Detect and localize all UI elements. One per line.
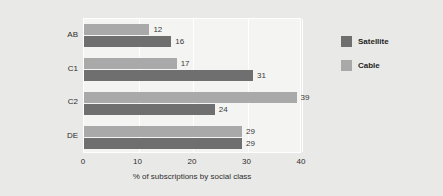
legend-label: Satellite <box>358 36 389 47</box>
y-axis-label-c1: C1 <box>56 64 78 73</box>
x-axis-title: % of subscriptions by social class <box>83 172 301 181</box>
bar-cable-c2 <box>84 92 297 103</box>
bar-value-label: 39 <box>301 92 310 103</box>
bar-series-container: 1216173139242929 <box>84 19 300 152</box>
bar-group: 1216 <box>84 24 300 47</box>
chart-figure: 1216173139242929 ABC1C2DE 010203040 % of… <box>0 0 443 196</box>
x-tick-30: 30 <box>237 157 257 166</box>
x-tick-40: 40 <box>291 157 311 166</box>
y-axis-label-de: DE <box>56 131 78 140</box>
bar-cable-de <box>84 126 242 137</box>
x-tick-10: 10 <box>128 157 148 166</box>
bar-value-label: 24 <box>219 104 228 115</box>
x-tick-20: 20 <box>182 157 202 166</box>
bar-satellite-c2 <box>84 104 215 115</box>
legend-swatch-icon <box>341 60 352 71</box>
bar-cable-ab <box>84 24 149 35</box>
y-axis-label-ab: AB <box>56 30 78 39</box>
bar-satellite-de <box>84 138 242 149</box>
bar-value-label: 17 <box>181 58 190 69</box>
bar-value-label: 29 <box>246 138 255 149</box>
bar-value-label: 31 <box>257 70 266 81</box>
bar-cable-c1 <box>84 58 177 69</box>
legend-label: Cable <box>358 60 380 71</box>
bar-satellite-ab <box>84 36 171 47</box>
x-tick-0: 0 <box>73 157 93 166</box>
y-axis-label-c2: C2 <box>56 97 78 106</box>
legend-swatch-icon <box>341 36 352 47</box>
plot-area: 1216173139242929 <box>83 18 301 153</box>
bar-value-label: 16 <box>175 36 184 47</box>
bar-satellite-c1 <box>84 70 253 81</box>
gridline <box>302 19 303 152</box>
bar-group: 2929 <box>84 126 300 149</box>
bar-group: 3924 <box>84 92 300 115</box>
bar-value-label: 29 <box>246 126 255 137</box>
bar-group: 1731 <box>84 58 300 81</box>
bar-value-label: 12 <box>153 24 162 35</box>
